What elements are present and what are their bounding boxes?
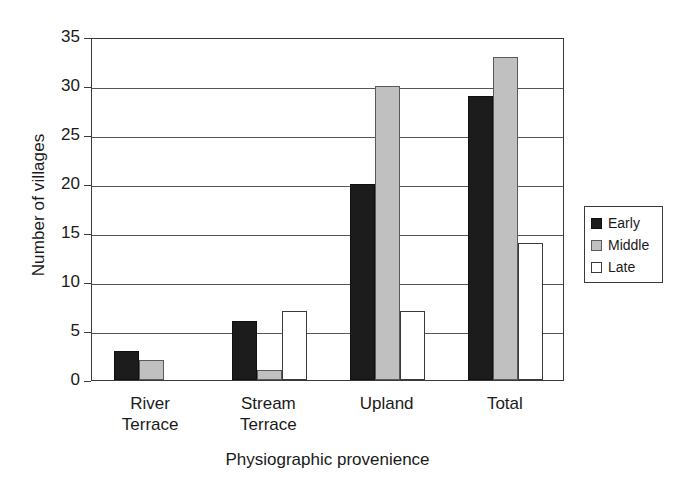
legend-item-late[interactable]: Late xyxy=(591,256,662,278)
x-axis-category-label: Total xyxy=(446,393,564,414)
y-axis-tick-label: 35 xyxy=(42,27,80,47)
y-axis-tick xyxy=(84,38,91,39)
bar-early-total xyxy=(468,96,493,380)
bar-early-stream-terrace xyxy=(232,321,257,380)
y-axis-tick-labels: 05101520253035 xyxy=(38,0,80,485)
legend-swatch-middle-icon xyxy=(591,240,602,251)
y-axis-tick-label: 0 xyxy=(42,370,80,390)
bar-middle-river-terrace xyxy=(139,360,164,380)
y-axis-tick-label: 15 xyxy=(42,223,80,243)
plot-area xyxy=(91,38,564,381)
y-axis-tick xyxy=(84,332,91,333)
bar-late-stream-terrace xyxy=(282,311,307,380)
x-axis-category-label: River Terrace xyxy=(91,393,209,435)
chart-figure: Number of villages 05101520253035 Physio… xyxy=(0,0,686,485)
legend-item-middle[interactable]: Middle xyxy=(591,234,662,256)
legend-item-early[interactable]: Early xyxy=(591,212,662,234)
bar-early-upland xyxy=(350,184,375,380)
y-axis-tick xyxy=(84,381,91,382)
bar-late-upland xyxy=(400,311,425,380)
x-axis-title: Physiographic provenience xyxy=(91,450,564,470)
y-axis-tick xyxy=(84,185,91,186)
y-axis-tick xyxy=(84,283,91,284)
chart-legend: EarlyMiddleLate xyxy=(584,206,663,283)
legend-swatch-late-icon xyxy=(591,262,602,273)
x-axis-category-label: Upland xyxy=(328,393,446,414)
y-axis-tick xyxy=(84,87,91,88)
y-axis-tick-label: 10 xyxy=(42,272,80,292)
y-axis-tick xyxy=(84,136,91,137)
bar-late-total xyxy=(518,243,543,380)
bar-early-river-terrace xyxy=(114,351,139,380)
bar-middle-upland xyxy=(375,86,400,380)
y-axis-tick xyxy=(84,234,91,235)
legend-swatch-early-icon xyxy=(591,218,602,229)
y-axis-tick-label: 20 xyxy=(42,174,80,194)
gridline xyxy=(92,88,563,89)
legend-label: Middle xyxy=(608,237,649,253)
y-axis-tick-label: 25 xyxy=(42,125,80,145)
legend-label: Late xyxy=(608,259,635,275)
y-axis-tick-label: 30 xyxy=(42,76,80,96)
bar-middle-total xyxy=(493,57,518,380)
x-axis-category-label: Stream Terrace xyxy=(209,393,327,435)
bar-middle-stream-terrace xyxy=(257,370,282,380)
y-axis-tick-label: 5 xyxy=(42,321,80,341)
legend-label: Early xyxy=(608,215,640,231)
